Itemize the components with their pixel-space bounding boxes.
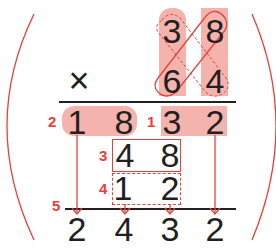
result-digit-2: 4 (112, 212, 136, 246)
result-digit-1: 2 (65, 212, 89, 246)
result-digit-3: 3 (158, 212, 182, 246)
carry-arrows (0, 0, 276, 252)
result-digit-4: 2 (203, 212, 227, 246)
multiplication-diagram: 3 8 6 4 × 2 1 8 1 3 2 3 4 8 4 1 2 5 2 (0, 0, 276, 252)
